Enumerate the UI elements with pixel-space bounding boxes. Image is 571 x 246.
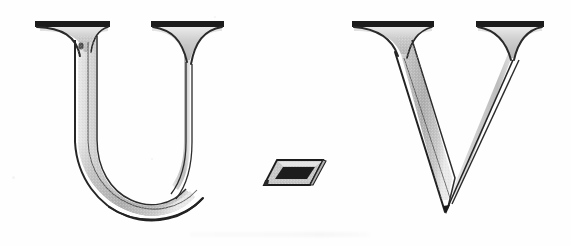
typography-artwork [0,0,571,246]
u-left-serif-bar [35,21,110,27]
hyphen-top-bevel [278,162,322,167]
u-right-serif-bar [151,21,224,27]
image-canvas: U-V [0,0,571,246]
v-right-serif-bar [476,21,544,27]
v-left-serif-bar [352,21,434,27]
